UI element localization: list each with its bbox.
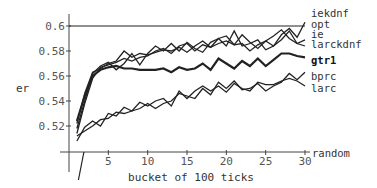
line-chart: 0.520.540.560.580.651015202530 iekdnfopt… <box>0 0 377 188</box>
series-label-bprc: bprc <box>311 70 336 82</box>
x-tick-label: 30 <box>298 155 311 168</box>
x-axis-label: bucket of 100 ticks <box>128 171 254 184</box>
y-tick-label: 0.54 <box>39 95 66 108</box>
x-tick-label: 20 <box>220 155 233 168</box>
series-label-larc: larc <box>311 82 336 94</box>
x-tick-label: 10 <box>141 155 154 168</box>
x-tick-label: 15 <box>180 155 193 168</box>
series-label-larckdnf: larckdnf <box>311 38 362 50</box>
y-tick-label: 0.58 <box>39 45 66 58</box>
x-tick-label: 25 <box>259 155 272 168</box>
series-line-bprc <box>77 72 305 136</box>
y-tick-label: 0.56 <box>39 70 66 83</box>
series-line-random <box>78 152 84 180</box>
series-labels: iekdnfoptielarckdnfgtr1bprclarcrandom <box>311 7 362 159</box>
series-label-random: random <box>312 147 350 159</box>
series-line-larckdnf <box>77 31 305 134</box>
series-label-gtr1: gtr1 <box>311 54 336 66</box>
y-tick-label: 0.52 <box>39 120 66 133</box>
y-tick-label: 0.6 <box>45 20 65 33</box>
y-axis-label: er <box>16 82 30 95</box>
x-tick-label: 5 <box>105 155 112 168</box>
